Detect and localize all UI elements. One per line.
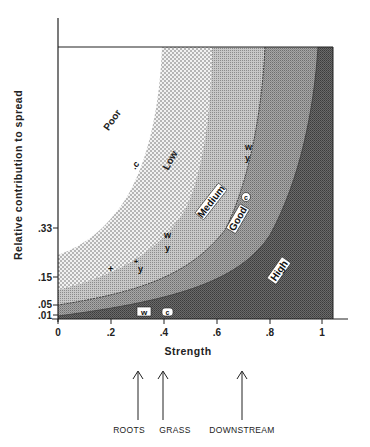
x-tick-02: .2 xyxy=(107,327,116,338)
x-tick-04: .4 xyxy=(160,327,169,338)
x-tick-06: .6 xyxy=(213,327,222,338)
point-w-high-label: w xyxy=(140,308,148,317)
point-w-top: w xyxy=(244,142,253,152)
arrow-label-grass: GRASS xyxy=(159,425,190,435)
x-tick-1: 1 xyxy=(319,327,325,338)
x-axis-ticks: 0 .2 .4 .6 .8 1 xyxy=(55,319,325,338)
point-c-good-label: c xyxy=(244,194,248,201)
arrow-downstream: DOWNSTREAM xyxy=(209,371,274,435)
arrow-grass: GRASS xyxy=(158,371,191,435)
plot-regions xyxy=(58,47,333,319)
point-c-high-label: c xyxy=(166,309,170,316)
point-w-mid: w xyxy=(163,230,172,240)
arrow-roots: ROOTS xyxy=(113,371,145,435)
point-c-good: c xyxy=(242,193,251,202)
point-y-top: y xyxy=(245,153,250,163)
y-tick-005: .05 xyxy=(38,299,52,310)
x-tick-08: .8 xyxy=(266,327,275,338)
point-c-high: c xyxy=(162,308,173,316)
arrow-label-downstream: DOWNSTREAM xyxy=(209,425,274,435)
y-axis-title: Relative contribution to spread xyxy=(12,90,24,260)
y-tick-001: .01 xyxy=(38,310,52,321)
point-plus-a: + xyxy=(108,264,113,274)
point-y-low: y xyxy=(138,264,143,274)
y-tick-033: .33 xyxy=(38,223,52,234)
annotation-arrows: ROOTS GRASS DOWNSTREAM xyxy=(113,371,275,435)
y-tick-015: .15 xyxy=(38,272,52,283)
point-w-high: w xyxy=(137,307,151,317)
y-axis-ticks: .33 .15 .05 .01 xyxy=(38,223,58,321)
chart-canvas: 0 .2 .4 .6 .8 1 .33 .15 .05 .01 Strength… xyxy=(0,0,370,447)
x-tick-0: 0 xyxy=(55,327,61,338)
x-axis-title: Strength xyxy=(164,345,211,357)
arrow-label-roots: ROOTS xyxy=(113,425,145,435)
point-y-mid: y xyxy=(165,243,170,253)
